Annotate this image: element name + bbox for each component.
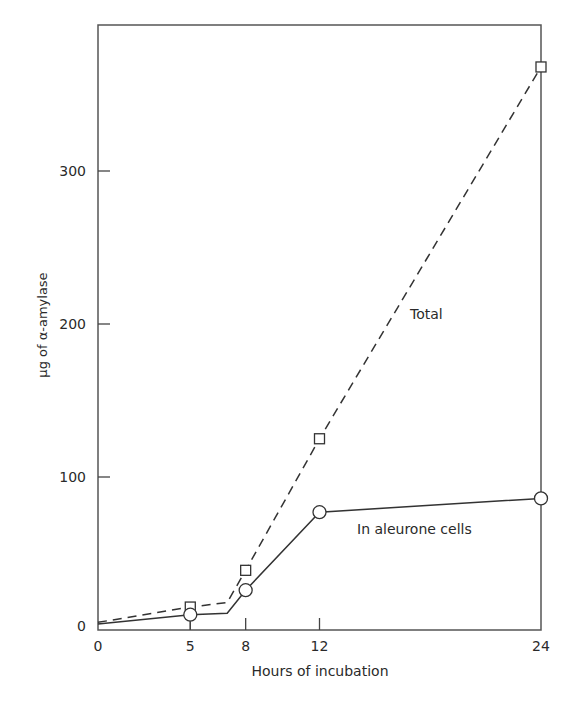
y-tick-label: 300 (0, 163, 86, 179)
data-series (98, 62, 548, 630)
x-tick-label: 5 (186, 638, 195, 654)
y-tick-label: 0 (0, 618, 86, 634)
square-marker (241, 565, 251, 575)
annotation-total: Total (410, 306, 443, 322)
chart-canvas (0, 0, 580, 701)
circle-marker (535, 492, 548, 505)
circle-marker (184, 608, 197, 621)
series-line (98, 67, 541, 622)
y-axis-label: µg of α-amylase (35, 272, 50, 377)
axis-ticks (98, 171, 320, 630)
circle-marker (239, 584, 252, 597)
plot-frame (98, 25, 541, 630)
x-tick-label: 8 (241, 638, 250, 654)
annotation-aleurone: In aleurone cells (357, 521, 472, 537)
square-marker (315, 434, 325, 444)
x-tick-label: 0 (94, 638, 103, 654)
x-tick-label: 12 (311, 638, 329, 654)
x-tick-label: 24 (532, 638, 550, 654)
square-marker (536, 62, 546, 72)
circle-marker (313, 506, 326, 519)
x-axis-label: Hours of incubation (251, 663, 388, 679)
y-tick-label: 100 (0, 469, 86, 485)
